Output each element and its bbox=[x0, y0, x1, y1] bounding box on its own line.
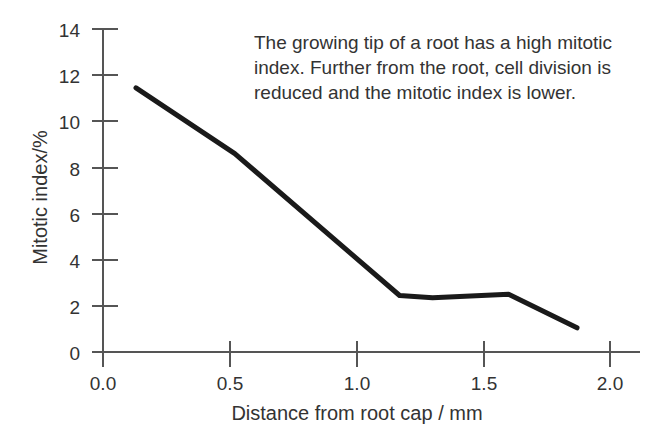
y-tick-label-14: 14 bbox=[34, 21, 80, 40]
x-tick-label-1-0: 1.0 bbox=[329, 374, 385, 393]
data-series-line bbox=[136, 88, 577, 328]
y-axis-ticks bbox=[92, 29, 118, 352]
x-axis-title: Distance from root cap / mm bbox=[103, 402, 611, 425]
x-tick-label-1-5: 1.5 bbox=[456, 374, 512, 393]
x-tick-label-2-0: 2.0 bbox=[582, 374, 638, 393]
chart-figure: 14 12 10 8 6 4 2 0 0.0 0.5 1.0 1.5 2.0 M… bbox=[0, 0, 662, 440]
y-axis-title: Mitotic index/% bbox=[29, 88, 52, 308]
y-tick-label-12: 12 bbox=[34, 67, 80, 86]
x-tick-label-0-5: 0.5 bbox=[202, 374, 258, 393]
x-axis-ticks bbox=[103, 341, 610, 367]
x-tick-label-0-0: 0.0 bbox=[75, 374, 131, 393]
y-tick-label-0: 0 bbox=[34, 344, 80, 363]
chart-annotation-text: The growing tip of a root has a high mit… bbox=[254, 30, 654, 105]
